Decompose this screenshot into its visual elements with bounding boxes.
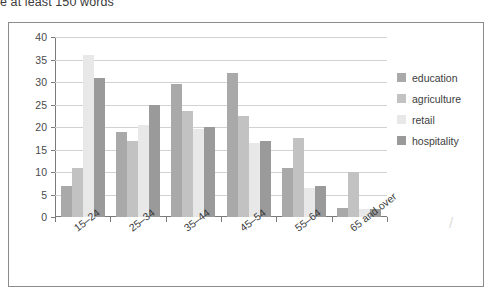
bar-agriculture-55–64 bbox=[293, 138, 304, 217]
y-axis-tick-label: 15 bbox=[25, 145, 47, 155]
legend-swatch-icon bbox=[397, 115, 406, 124]
y-axis-tick-label: 5 bbox=[25, 190, 47, 200]
legend-item-label: education bbox=[412, 72, 458, 84]
bar-education-25–34 bbox=[116, 132, 127, 218]
x-axis-tick-mark bbox=[55, 217, 56, 222]
bar-agriculture-35–44 bbox=[182, 111, 193, 217]
page-caption: e at least 150 words bbox=[0, 0, 114, 11]
legend-item-agriculture[interactable]: agriculture bbox=[397, 88, 481, 109]
legend-item-retail[interactable]: retail bbox=[397, 109, 481, 130]
bar-retail-45–54 bbox=[249, 143, 260, 217]
y-axis-tick-label: 40 bbox=[25, 32, 47, 42]
bar-group bbox=[55, 37, 110, 217]
x-axis-tick-mark bbox=[332, 217, 333, 222]
legend-swatch-icon bbox=[397, 73, 406, 82]
bar-group bbox=[221, 37, 276, 217]
bar-retail-15–24 bbox=[83, 55, 94, 217]
y-axis-tick-label: 30 bbox=[25, 77, 47, 87]
y-axis-tick-label: 20 bbox=[25, 122, 47, 132]
legend-item-label: retail bbox=[412, 114, 435, 126]
chart-figure-frame: 051015202530354015–2425–3435–4445–5455–6… bbox=[8, 22, 484, 287]
x-axis-tick-mark bbox=[387, 217, 388, 222]
legend-item-label: hospitality bbox=[412, 135, 459, 147]
legend-swatch-icon bbox=[397, 94, 406, 103]
bar-group bbox=[276, 37, 331, 217]
legend-item-label: agriculture bbox=[412, 93, 461, 105]
bar-retail-35–44 bbox=[193, 129, 204, 217]
bar-agriculture-65-and-over bbox=[348, 172, 359, 217]
bar-hospitality-25–34 bbox=[149, 105, 160, 218]
bar-education-55–64 bbox=[282, 168, 293, 218]
stray-mark: / bbox=[449, 213, 459, 233]
bar-agriculture-25–34 bbox=[127, 141, 138, 218]
bar-group bbox=[166, 37, 221, 217]
plot-area: 051015202530354015–2425–3435–4445–5455–6… bbox=[55, 37, 387, 217]
bar-group bbox=[110, 37, 165, 217]
y-axis-tick-label: 25 bbox=[25, 100, 47, 110]
legend-swatch-icon bbox=[397, 136, 406, 145]
chart-legend: educationagricultureretailhospitality bbox=[397, 67, 481, 151]
bar-education-15–24 bbox=[61, 186, 72, 218]
bar-hospitality-35–44 bbox=[204, 127, 215, 217]
x-axis-tick-mark bbox=[221, 217, 222, 222]
bar-education-35–44 bbox=[171, 84, 182, 217]
bar-retail-25–34 bbox=[138, 125, 149, 217]
bar-hospitality-45–54 bbox=[260, 141, 271, 218]
bar-education-45–54 bbox=[227, 73, 238, 217]
y-axis-tick-label: 10 bbox=[25, 167, 47, 177]
legend-item-education[interactable]: education bbox=[397, 67, 481, 88]
y-axis-tick-label: 0 bbox=[25, 212, 47, 222]
y-axis-tick-label: 35 bbox=[25, 55, 47, 65]
bar-education-65-and-over bbox=[337, 208, 348, 217]
x-axis-tick-mark bbox=[276, 217, 277, 222]
bar-agriculture-15–24 bbox=[72, 168, 83, 218]
x-axis-tick-mark bbox=[110, 217, 111, 222]
chart-area: 051015202530354015–2425–3435–4445–5455–6… bbox=[9, 23, 483, 286]
bar-hospitality-15–24 bbox=[94, 78, 105, 218]
legend-item-hospitality[interactable]: hospitality bbox=[397, 130, 481, 151]
bar-agriculture-45–54 bbox=[238, 116, 249, 217]
bar-group bbox=[332, 37, 387, 217]
x-axis-tick-mark bbox=[166, 217, 167, 222]
